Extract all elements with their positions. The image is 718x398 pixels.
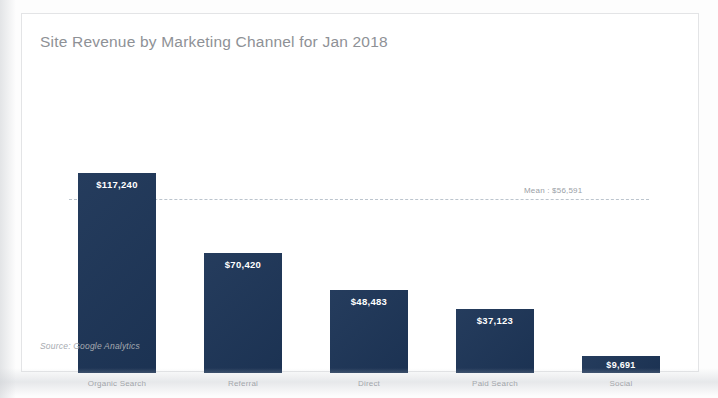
bar-group-organic-search[interactable]: $117,240 Organic Search <box>78 80 156 373</box>
bar-paid-search[interactable]: $37,123 <box>456 309 534 373</box>
x-axis-label-direct: Direct <box>318 379 420 388</box>
x-axis-label-organic-search: Organic Search <box>66 379 168 388</box>
bar-value-label: $48,483 <box>330 296 408 307</box>
bar-group-social[interactable]: $9,691 Social <box>582 80 660 373</box>
x-axis-label-social: Social <box>570 379 672 388</box>
bar-group-paid-search[interactable]: $37,123 Paid Search <box>456 80 534 373</box>
bar-value-label: $37,123 <box>456 315 534 326</box>
chart-card: Site Revenue by Marketing Channel for Ja… <box>21 13 699 372</box>
chart-source-caption: Source: Google Analytics <box>40 341 140 351</box>
bar-value-label: $117,240 <box>78 179 156 190</box>
bar-social[interactable]: $9,691 <box>582 356 660 373</box>
bar-direct[interactable]: $48,483 <box>330 290 408 373</box>
bar-group-referral[interactable]: $70,420 Referral <box>204 80 282 373</box>
bar-chart-plot-area: Mean : $56,591 $117,240 Organic Search $… <box>22 14 700 373</box>
bar-value-label: $9,691 <box>582 360 660 370</box>
bar-referral[interactable]: $70,420 <box>204 253 282 373</box>
screenshot-page: Site Revenue by Marketing Channel for Ja… <box>0 0 718 398</box>
bar-value-label: $70,420 <box>204 259 282 270</box>
x-axis-label-referral: Referral <box>192 379 294 388</box>
bar-group-direct[interactable]: $48,483 Direct <box>330 80 408 373</box>
x-axis-label-paid-search: Paid Search <box>444 379 546 388</box>
